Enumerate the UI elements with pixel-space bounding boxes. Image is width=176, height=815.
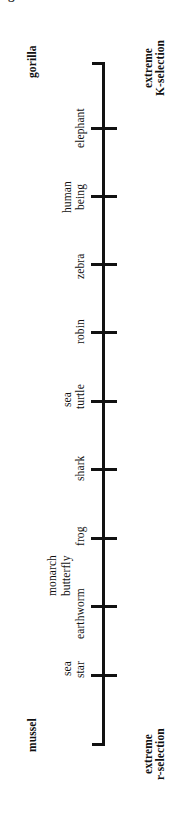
species-label-frog: frog <box>74 515 86 557</box>
corner-label-mussel: mussel <box>26 700 38 770</box>
corner-label-gorilla: gorilla <box>26 22 38 102</box>
species-label-zebra: zebra <box>74 240 86 292</box>
axis-top-cap <box>92 62 105 65</box>
species-label-human-being-line2: being <box>74 168 86 226</box>
axis-tick <box>91 400 117 403</box>
species-label-shark: shark <box>74 443 86 493</box>
r-k-selection-continuum-figure: g gorilla mussel extreme K-selection ext… <box>0 0 176 815</box>
endpoint-label-extreme-r-selection: extreme r-selection <box>142 700 166 808</box>
species-label-robin: robin <box>74 308 86 356</box>
species-label-elephant: elephant <box>74 95 86 161</box>
species-label-sea-star-line2: star <box>74 648 86 690</box>
clipped-title-fragment: g <box>8 0 15 3</box>
species-label-monarch-butterfly-line1: monarch <box>46 545 58 607</box>
species-label-sea-star-line1: sea <box>61 648 73 690</box>
axis-tick <box>91 605 117 608</box>
species-label-sea-turtle-line1: sea <box>61 376 73 424</box>
axis-tick <box>91 127 117 130</box>
axis-tick <box>91 263 117 266</box>
axis-tick <box>91 331 117 334</box>
axis-bottom-cap <box>92 743 105 746</box>
axis-tick <box>91 537 117 540</box>
continuum-axis-line <box>102 62 105 746</box>
axis-tick <box>91 674 117 677</box>
endpoint-label-extreme-k-selection: extreme K-selection <box>142 14 166 122</box>
axis-tick <box>91 468 117 471</box>
species-label-earthworm: earthworm <box>74 578 86 650</box>
axis-tick <box>91 195 117 198</box>
species-label-sea-turtle-line2: turtle <box>74 370 86 424</box>
species-label-human-being-line1: human <box>61 168 73 226</box>
species-label-monarch-butterfly-line2: butterfly <box>60 545 72 607</box>
